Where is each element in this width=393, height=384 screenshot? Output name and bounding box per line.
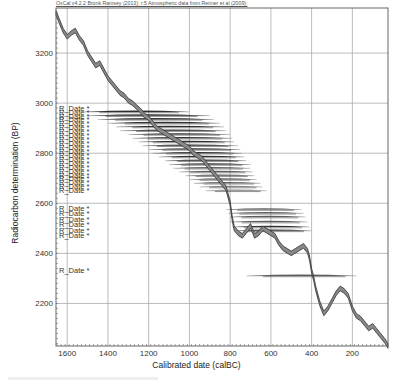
y-tick-label: 3000 <box>35 99 53 108</box>
probability-distribution <box>116 126 224 127</box>
probability-distribution <box>108 122 220 123</box>
probability-distribution <box>232 226 309 227</box>
plot-frame <box>56 8 388 346</box>
x-tick-label: 400 <box>305 349 319 358</box>
probability-distribution <box>179 171 252 172</box>
x-tick-label: 1400 <box>99 349 117 358</box>
r-date-label: R_Date * <box>59 266 90 275</box>
probability-distribution <box>120 129 226 130</box>
credit-line: OxCal v4.2.2 Bronk Ramsey (2013); r:5 At… <box>56 0 247 6</box>
y-axis-label: Radiocarbon determination (BP) <box>10 108 20 258</box>
y-tick-label: 2600 <box>35 199 53 208</box>
calibration-chart: R_Date *R_Date *R_Date *R_Date *R_Date *… <box>0 0 393 384</box>
date-distributions <box>83 111 356 277</box>
r-date-label: R_Date * <box>59 186 90 195</box>
x-tick-label: 800 <box>223 349 237 358</box>
y-tick-label: 3200 <box>35 49 53 58</box>
probability-distribution <box>200 186 263 187</box>
x-tick-label: 1200 <box>140 349 158 358</box>
probability-distribution <box>132 137 232 138</box>
probability-distribution <box>230 221 307 222</box>
y-tick-label: 2200 <box>35 299 53 308</box>
probability-distribution <box>98 118 214 119</box>
x-axis-label: Calibrated date (calBC) <box>0 360 393 370</box>
r-date-labels: R_Date *R_Date *R_Date *R_Date *R_Date *… <box>59 104 90 276</box>
probability-distribution <box>193 182 260 183</box>
probability-distribution <box>149 148 241 149</box>
probability-distribution <box>246 275 356 276</box>
probability-distribution <box>189 178 256 179</box>
y-tick-label: 2400 <box>35 249 53 258</box>
y-tick-label: 2800 <box>35 149 53 158</box>
probability-distribution <box>185 174 254 175</box>
x-tick-label: 200 <box>346 349 360 358</box>
probability-distribution <box>143 144 239 145</box>
probability-distribution <box>83 111 189 112</box>
probability-distribution <box>169 163 250 164</box>
probability-distribution <box>128 133 230 134</box>
probability-distribution <box>230 216 305 217</box>
x-tick-label: 600 <box>264 349 278 358</box>
footnote-text <box>8 377 158 380</box>
probability-distribution <box>138 141 234 142</box>
x-tick-label: 1600 <box>58 349 76 358</box>
probability-distribution <box>228 212 303 213</box>
probability-distribution <box>226 208 301 209</box>
y-axis-ticks: 220024002600280030003200 <box>35 13 58 343</box>
x-tick-label: 1000 <box>181 349 199 358</box>
grid-lines <box>56 8 388 346</box>
r-date-label: R_Date * <box>59 231 90 240</box>
probability-distribution <box>206 189 267 190</box>
